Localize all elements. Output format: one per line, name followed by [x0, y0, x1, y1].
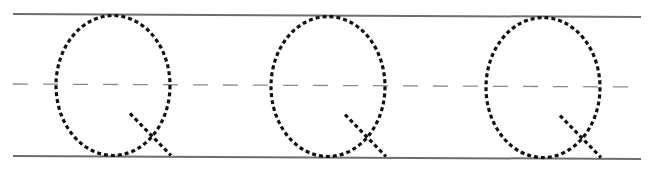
- midline-dashed: [13, 84, 641, 87]
- letter-q-tail: [130, 113, 171, 155]
- letter-q-bowl: [271, 17, 385, 157]
- traceable-letter-q: [486, 18, 601, 158]
- handwriting-practice-sheet: [0, 0, 651, 173]
- letter-q-tail: [345, 115, 386, 157]
- letter-q-bowl: [486, 18, 600, 158]
- letter-q-bowl: [56, 15, 170, 155]
- letter-q-tail: [560, 116, 601, 158]
- traceable-letter-q: [56, 15, 171, 155]
- traceable-letter-q: [271, 17, 386, 157]
